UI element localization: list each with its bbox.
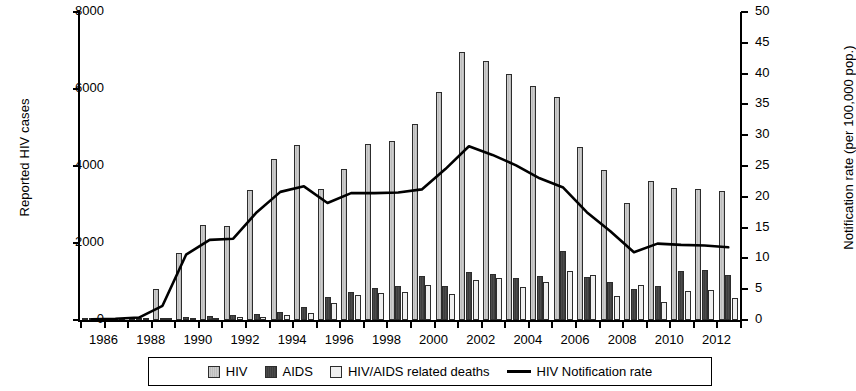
y-axis-right-tick-label: 15 — [755, 219, 795, 234]
x-axis-tick-label: 2012 — [686, 332, 746, 347]
legend-swatch-aids-icon — [265, 366, 277, 378]
legend-item-label: HIV Notification rate — [537, 364, 653, 379]
y-axis-right-tickmark — [741, 73, 748, 75]
y-axis-right-tick-label: 5 — [755, 280, 795, 295]
y-axis-right-spine — [740, 12, 742, 321]
y-axis-right-tickmark — [741, 227, 748, 229]
y-axis-right-tick-label: 0 — [755, 311, 795, 326]
legend-item-label: AIDS — [283, 364, 313, 379]
y-axis-right-tickmark — [741, 196, 748, 198]
y-axis-right-tickmark — [741, 319, 748, 321]
legend-swatch-hiv-icon — [208, 366, 220, 378]
y-axis-right-tick-label: 35 — [755, 95, 795, 110]
y-axis-right-tickmark — [741, 288, 748, 290]
y-axis-right-tickmark — [741, 103, 748, 105]
legend-swatch-deaths-icon — [330, 366, 342, 378]
y-axis-right-tick-label: 25 — [755, 157, 795, 172]
y-axis-right-title: Notification rate (per 100,000 pop.) — [841, 18, 856, 278]
y-axis-left-title: Reported HIV cases — [17, 48, 32, 268]
legend-item: HIV Notification rate — [507, 364, 653, 379]
y-axis-right-tick-label: 45 — [755, 34, 795, 49]
legend-item: HIV/AIDS related deaths — [330, 364, 490, 379]
y-axis-right-tickmark — [741, 42, 748, 44]
y-axis-right-tick-label: 20 — [755, 188, 795, 203]
plot-area — [80, 12, 740, 320]
y-axis-right-tick-label: 10 — [755, 249, 795, 264]
y-axis-right-tick-label: 30 — [755, 126, 795, 141]
y-axis-right-tick-label: 40 — [755, 65, 795, 80]
y-axis-right-tickmark — [741, 257, 748, 259]
y-axis-right-tickmark — [741, 165, 748, 167]
legend-item: HIV — [208, 364, 248, 379]
y-axis-right-tickmark — [741, 11, 748, 13]
legend-item-label: HIV/AIDS related deaths — [348, 364, 490, 379]
legend-item-label: HIV — [226, 364, 248, 379]
legend-swatch-line-icon — [507, 370, 531, 373]
y-axis-right-tick-label: 50 — [755, 3, 795, 18]
x-axis-spine — [78, 320, 742, 322]
notification-rate-line — [80, 12, 740, 320]
y-axis-right-tickmark — [741, 134, 748, 136]
chart-legend: HIVAIDSHIV/AIDS related deathsHIV Notifi… — [148, 357, 712, 386]
legend-item: AIDS — [265, 364, 313, 379]
